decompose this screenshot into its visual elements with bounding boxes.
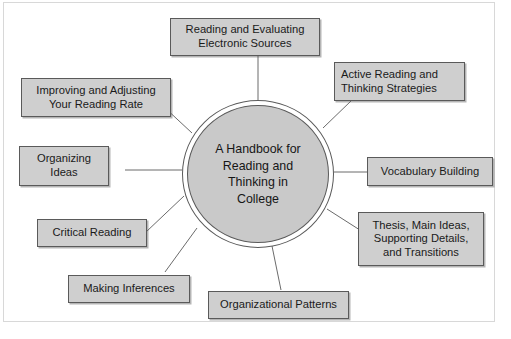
center-node-handbook[interactable]: A Handbook for Reading and Thinking in C… bbox=[187, 105, 329, 243]
node-label: Making Inferences bbox=[83, 282, 174, 296]
node-active-reading-thinking-strategies[interactable]: Active Reading and Thinking Strategies bbox=[334, 62, 465, 101]
center-node-label: A Handbook for Reading and Thinking in C… bbox=[215, 141, 300, 207]
diagram-canvas: Reading and Evaluating Electronic Source… bbox=[0, 0, 511, 339]
node-label: Active Reading and Thinking Strategies bbox=[341, 68, 438, 95]
node-organizing-ideas[interactable]: Organizing Ideas bbox=[19, 146, 109, 186]
node-label: Thesis, Main Ideas, Supporting Details, … bbox=[372, 219, 469, 260]
node-label: Organizational Patterns bbox=[220, 298, 337, 312]
node-critical-reading[interactable]: Critical Reading bbox=[37, 219, 147, 247]
node-label: Organizing Ideas bbox=[37, 152, 91, 179]
node-label: Vocabulary Building bbox=[381, 165, 479, 179]
node-making-inferences[interactable]: Making Inferences bbox=[68, 275, 190, 303]
node-label: Reading and Evaluating Electronic Source… bbox=[186, 23, 305, 50]
node-reading-evaluating-electronic-sources[interactable]: Reading and Evaluating Electronic Source… bbox=[170, 18, 320, 56]
node-label: Critical Reading bbox=[53, 226, 132, 240]
node-label: Improving and Adjusting Your Reading Rat… bbox=[36, 84, 155, 111]
connector-line-left-lower bbox=[146, 196, 184, 232]
node-organizational-patterns[interactable]: Organizational Patterns bbox=[208, 291, 349, 319]
center-node-group[interactable]: A Handbook for Reading and Thinking in C… bbox=[182, 100, 334, 248]
node-improving-adjusting-reading-rate[interactable]: Improving and Adjusting Your Reading Rat… bbox=[21, 78, 171, 117]
connector-line-bottom bbox=[272, 246, 281, 290]
node-thesis-main-ideas-supporting-details-transitions[interactable]: Thesis, Main Ideas, Supporting Details, … bbox=[358, 212, 484, 266]
node-vocabulary-building[interactable]: Vocabulary Building bbox=[367, 157, 493, 186]
